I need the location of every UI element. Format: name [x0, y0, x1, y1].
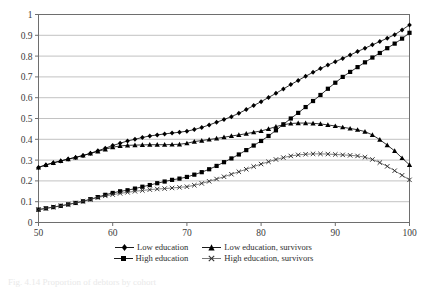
- svg-text:0.6: 0.6: [21, 93, 33, 103]
- x-axis-tick-labels: 5060708090100: [34, 228, 417, 238]
- svg-text:0.9: 0.9: [21, 31, 33, 41]
- legend-label: High education, survivors: [224, 253, 313, 263]
- triangle-marker-icon: [202, 243, 221, 252]
- legend-item-high-education[interactable]: High education: [114, 253, 189, 263]
- y-axis-tick-labels: 00.10.20.30.40.50.60.70.80.91: [21, 10, 33, 228]
- chart-figure: 00.10.20.30.40.50.60.70.80.91 5060708090…: [0, 0, 427, 289]
- svg-text:50: 50: [34, 228, 44, 238]
- svg-text:70: 70: [182, 228, 192, 238]
- legend-label: Low education: [137, 242, 188, 252]
- svg-text:60: 60: [108, 228, 118, 238]
- legend-item-low-education[interactable]: Low education: [115, 242, 188, 252]
- svg-text:0.7: 0.7: [21, 72, 33, 82]
- gridlines: [39, 15, 410, 202]
- legend-label: Low education, survivors: [224, 242, 312, 252]
- svg-text:0.5: 0.5: [21, 114, 33, 124]
- chart-legend: Low education Low education, survivors H…: [0, 242, 427, 263]
- svg-text:0.1: 0.1: [21, 197, 33, 207]
- legend-row: Low education Low education, survivors: [115, 242, 312, 252]
- svg-text:1: 1: [28, 10, 33, 20]
- series-diamond: [36, 22, 412, 169]
- legend-label: High education: [136, 253, 189, 263]
- svg-text:100: 100: [402, 228, 417, 238]
- svg-text:90: 90: [331, 228, 341, 238]
- svg-text:80: 80: [256, 228, 266, 238]
- svg-text:0.2: 0.2: [21, 176, 33, 186]
- data-series-group: [36, 22, 412, 211]
- legend-item-low-education-survivors[interactable]: Low education, survivors: [202, 242, 312, 252]
- svg-text:0.8: 0.8: [21, 52, 33, 62]
- svg-text:0.4: 0.4: [21, 135, 33, 145]
- figure-caption: Fig. 4.14 Proportion of debtors by cohor…: [8, 277, 418, 289]
- legend-row: High education High education, survivors: [114, 253, 314, 263]
- svg-text:0: 0: [28, 218, 33, 228]
- diamond-marker-icon: [115, 243, 134, 252]
- legend-item-high-education-survivors[interactable]: High education, survivors: [202, 253, 313, 263]
- cross-marker-icon: [202, 254, 221, 263]
- square-marker-icon: [114, 254, 133, 263]
- svg-text:0.3: 0.3: [21, 156, 33, 166]
